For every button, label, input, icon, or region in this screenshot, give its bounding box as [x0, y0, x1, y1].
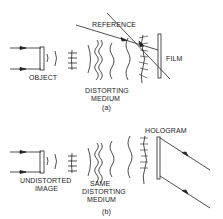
label-same-distorting: DISTORTING: [82, 188, 126, 196]
panel-a-diagram: [10, 13, 170, 83]
label-same: SAME: [90, 180, 110, 188]
holography-diagram: [0, 0, 223, 219]
label-undistorted-1: UNDISTORTED: [20, 177, 71, 185]
label-film: FILM: [166, 55, 182, 63]
label-reference: REFERENCE: [92, 21, 136, 29]
caption-b: (b): [102, 208, 111, 216]
label-distorting-medium-1: DISTORTING: [85, 87, 129, 95]
label-same-medium: MEDIUM: [87, 196, 116, 204]
label-distorting-medium-2: MEDIUM: [91, 95, 120, 103]
caption-a: (a): [102, 104, 111, 112]
label-hologram: HOLOGRAM: [145, 127, 187, 135]
label-undistorted-2: IMAGE: [35, 185, 58, 193]
label-object: OBJECT: [29, 74, 57, 82]
